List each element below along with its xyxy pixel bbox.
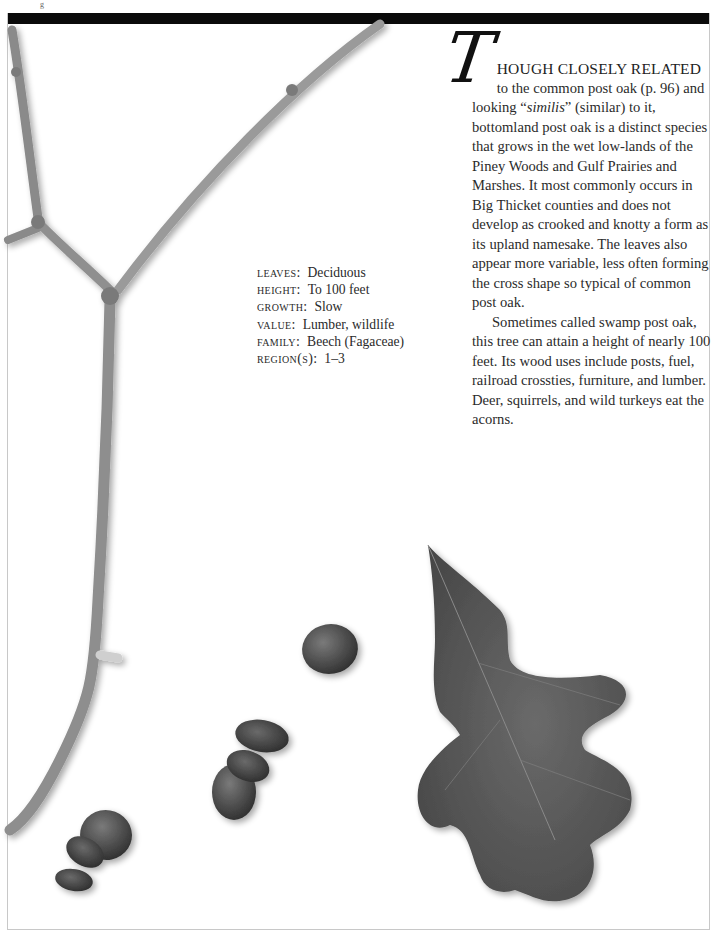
fact-label: HEIGHT: — [257, 282, 301, 297]
fact-label: LEAVES: — [257, 265, 301, 280]
fact-label: GROWTH: — [257, 299, 308, 314]
paragraph-1-italic: similis — [527, 99, 565, 115]
fact-growth: GROWTH: Slow — [257, 298, 404, 315]
fact-label: REGION(S): — [257, 351, 318, 366]
fact-value: Lumber, wildlife — [303, 317, 395, 332]
fact-value: Deciduous — [308, 265, 366, 280]
fact-value: 1–3 — [324, 351, 344, 366]
species-facts: LEAVES: Deciduous HEIGHT: To 100 feet GR… — [257, 264, 404, 367]
lead-in-caps: HOUGH CLOSELY RELATED — [472, 26, 712, 79]
fact-label: FAMILY: — [257, 334, 300, 349]
fact-label: VALUE: — [257, 317, 296, 332]
paragraph-2: Sometimes called swamp post oak, this tr… — [472, 313, 712, 430]
paragraph-1: to the common post oak (p. 96) and looki… — [472, 79, 712, 313]
acorns-image — [53, 620, 362, 895]
fact-value-uses: VALUE: Lumber, wildlife — [257, 316, 404, 333]
fact-height: HEIGHT: To 100 feet — [257, 281, 404, 298]
fact-leaves: LEAVES: Deciduous — [257, 264, 404, 281]
twig-image — [8, 24, 380, 830]
drop-cap: T — [442, 30, 497, 86]
fact-value: To 100 feet — [308, 282, 370, 297]
fact-value: Beech (Fagaceae) — [307, 334, 404, 349]
fact-family: FAMILY: Beech (Fagaceae) — [257, 333, 404, 350]
fact-value: Slow — [314, 299, 342, 314]
article-body: T HOUGH CLOSELY RELATED to the common po… — [472, 26, 712, 430]
fact-regions: REGION(S): 1–3 — [257, 350, 404, 367]
oak-leaf-image — [418, 545, 632, 901]
paragraph-1-end: ” (similar) to it, bottomland post oak i… — [472, 99, 709, 310]
